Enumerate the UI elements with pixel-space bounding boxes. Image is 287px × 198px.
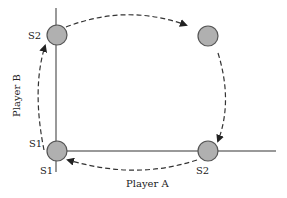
best-response-cycle-diagram: S2 S1 S1 S2 Player A Player B bbox=[0, 0, 287, 198]
label-bottom-left-upper: S1 bbox=[29, 138, 42, 149]
node-top-right bbox=[198, 26, 218, 46]
arrow-bottom-right-to-bottom-left bbox=[68, 160, 197, 170]
label-bottom-right: S2 bbox=[196, 165, 209, 176]
y-axis-label: Player B bbox=[11, 74, 22, 117]
arrow-top-left-to-top-right bbox=[66, 15, 186, 27]
label-top-left: S2 bbox=[28, 30, 41, 41]
x-axis-label: Player A bbox=[126, 178, 169, 189]
label-bottom-left-lower: S1 bbox=[40, 165, 53, 176]
arrow-top-right-to-bottom-right bbox=[218, 53, 226, 141]
arrow-s1-to-top-left bbox=[38, 46, 45, 150]
node-bottom-left bbox=[47, 141, 67, 161]
node-bottom-right bbox=[198, 141, 218, 161]
node-top-left bbox=[47, 25, 67, 45]
